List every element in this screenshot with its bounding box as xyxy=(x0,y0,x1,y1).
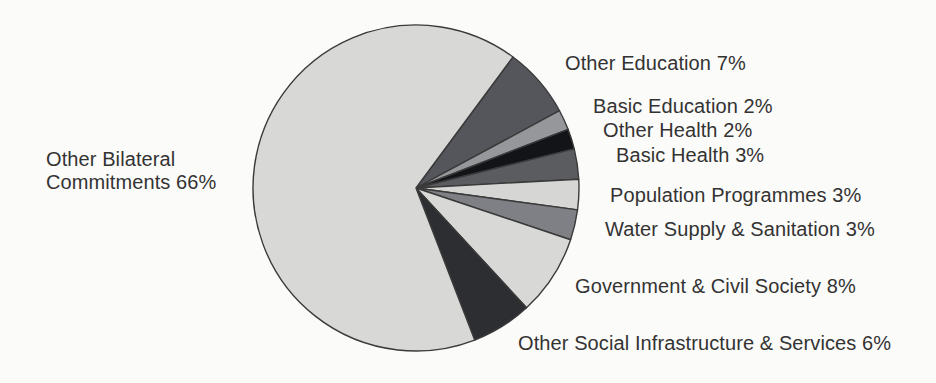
slice-label-basic-health: Basic Health 3% xyxy=(616,144,764,167)
slice-label-basic-education: Basic Education 2% xyxy=(593,95,773,118)
slice-label-government-civil-society: Government & Civil Society 8% xyxy=(575,275,856,298)
pie-chart-figure: Other Education 7%Basic Education 2%Othe… xyxy=(0,0,936,383)
slice-label-other-health: Other Health 2% xyxy=(603,119,752,142)
slice-label-other-education: Other Education 7% xyxy=(565,52,746,75)
slice-label-water-supply-sanitation: Water Supply & Sanitation 3% xyxy=(605,218,875,241)
slice-label-other-social-infrastructure-services: Other Social Infrastructure & Services 6… xyxy=(518,332,891,355)
slice-label-other-bilateral-commitments: Other Bilateral Commitments 66% xyxy=(46,148,224,194)
slice-label-population-programmes: Population Programmes 3% xyxy=(610,184,861,207)
